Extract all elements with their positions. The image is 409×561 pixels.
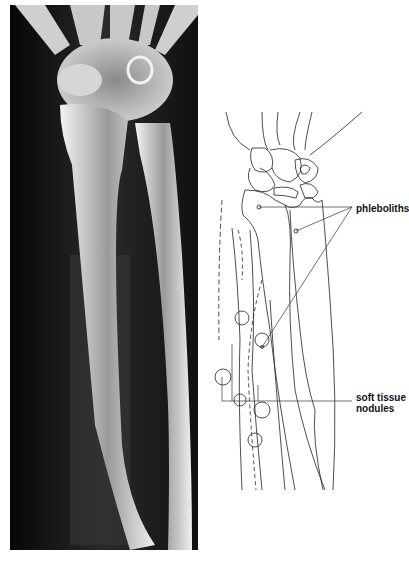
- soft-tissue-line1: soft tissue: [356, 392, 406, 403]
- phleboliths-label: phleboliths: [356, 203, 409, 214]
- soft-tissue-nodules-label: soft tissue nodules: [356, 392, 406, 414]
- soft-tissue-line2: nodules: [356, 403, 406, 414]
